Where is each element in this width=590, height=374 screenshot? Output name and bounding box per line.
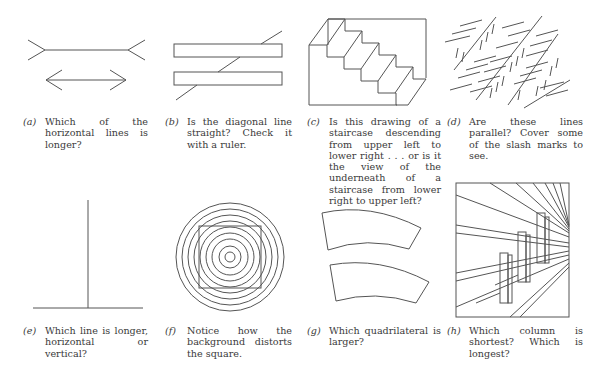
- figure-g-jastrow: [295, 190, 445, 320]
- figure-f-concentric-square: [150, 190, 300, 320]
- caption-text: Is the diagonal line straight? Check it …: [187, 116, 292, 150]
- caption-label: (d): [447, 116, 469, 161]
- caption-f: (f) Notice how the background distorts t…: [165, 325, 292, 359]
- figure-d-zollner: [440, 0, 590, 110]
- caption-d: (d) Are these lines parallel? Cover some…: [447, 116, 583, 161]
- figure-c-staircase: [295, 0, 445, 110]
- caption-a: (a) Which of the horizontal lines is lon…: [23, 116, 148, 150]
- caption-label: (b): [165, 116, 187, 150]
- caption-text: Which of the horizontal lines is longer?: [45, 116, 148, 150]
- caption-text: Notice how the background distorts the s…: [187, 325, 292, 359]
- caption-label: (g): [307, 325, 329, 348]
- caption-text: Are these lines parallel? Cover some of …: [469, 116, 583, 161]
- caption-label: (a): [23, 116, 45, 150]
- figure-a-muller-lyer: [0, 0, 150, 110]
- caption-text: Which column is shortest? Which is longe…: [469, 325, 583, 359]
- caption-label: (f): [165, 325, 187, 359]
- figure-b-poggendorff: [150, 0, 300, 110]
- caption-label: (e): [23, 325, 45, 359]
- caption-h: (h) Which column is shortest? Which is l…: [447, 325, 583, 359]
- caption-g: (g) Which quadrilateral is larger?: [307, 325, 441, 348]
- caption-label: (h): [447, 325, 469, 359]
- caption-e: (e) Which line is longer, horizontal or …: [23, 325, 148, 359]
- caption-text: Which quadrilateral is larger?: [329, 325, 441, 348]
- caption-b: (b) Is the diagonal line straight? Check…: [165, 116, 292, 150]
- figure-e-vertical-horizontal: [0, 190, 150, 320]
- figure-h-perspective-columns: [440, 175, 590, 320]
- caption-text: Which line is longer, horizontal or vert…: [45, 325, 148, 359]
